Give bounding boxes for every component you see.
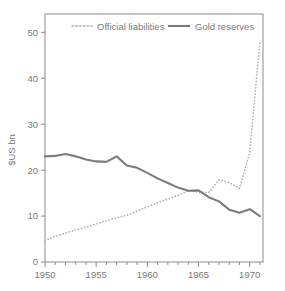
chart-figure: 01020304050 19501955196019651970 $US bn …: [0, 0, 285, 291]
y-tick-label: 40: [27, 73, 38, 84]
chart-background: [0, 0, 285, 291]
x-tick-label: 1960: [137, 269, 158, 280]
y-tick-label: 10: [27, 210, 38, 221]
legend-label-official-liabilities: Official liabilities: [97, 21, 165, 32]
y-tick-label: 20: [27, 165, 38, 176]
y-axis-title: $US bn: [6, 134, 17, 166]
x-tick-label: 1955: [86, 269, 107, 280]
y-tick-label: 30: [27, 119, 38, 130]
line-chart: 01020304050 19501955196019651970 $US bn …: [0, 0, 285, 291]
y-tick-label: 0: [33, 256, 38, 267]
legend-label-gold-reserves: Gold reserves: [195, 21, 254, 32]
y-tick-label: 50: [27, 27, 38, 38]
chart-legend: Official liabilities Gold reserves: [72, 21, 254, 32]
x-tick-label: 1950: [34, 269, 55, 280]
x-tick-label: 1965: [188, 269, 209, 280]
x-tick-label: 1970: [239, 269, 260, 280]
